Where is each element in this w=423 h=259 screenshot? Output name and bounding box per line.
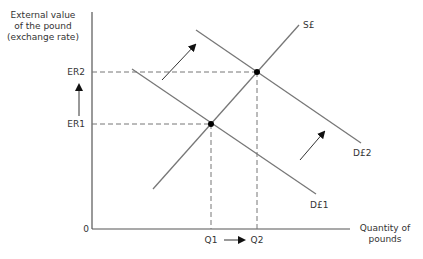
er1-label: ER1 — [67, 119, 85, 129]
er2-label: ER2 — [67, 67, 85, 77]
demand-shift-arrow-right — [300, 132, 324, 160]
exchange-rate-diagram: ER2 ER1 0 Q1 Q2 S£ D£1 D£2 — [0, 0, 423, 259]
demand-curve-1-label: D£1 — [310, 200, 328, 210]
origin-label: 0 — [83, 224, 89, 234]
equilibrium-point-1 — [208, 121, 214, 127]
demand-shift-arrow-left — [162, 45, 195, 80]
equilibrium-point-2 — [254, 69, 260, 75]
supply-curve — [153, 25, 299, 189]
demand-curve-2-label: D£2 — [353, 148, 371, 158]
demand-curve-1 — [132, 69, 316, 194]
demand-curve-2 — [196, 30, 361, 143]
q2-label: Q2 — [251, 235, 264, 245]
supply-curve-label: S£ — [303, 20, 314, 30]
q1-label: Q1 — [205, 235, 218, 245]
